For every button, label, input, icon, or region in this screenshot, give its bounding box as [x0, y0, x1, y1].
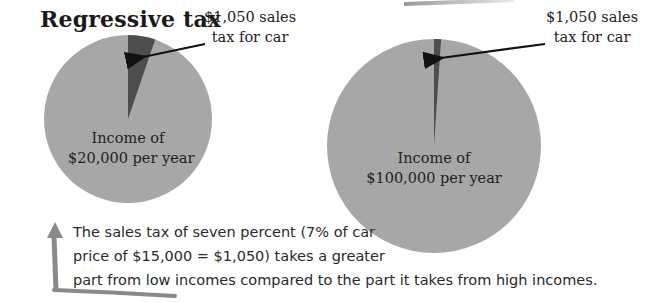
pie-label-high: Income of $100,000 per year [364, 148, 504, 188]
pie-label-line2: $100,000 per year [364, 168, 504, 188]
caption-line2: price of $15,000 = $1,050) takes a great… [73, 244, 597, 268]
pie-label-line1: Income of [68, 128, 188, 148]
caption-line1: The sales tax of seven percent (7% of ca… [73, 220, 597, 244]
pie-label-line1: Income of [364, 148, 504, 168]
caption-line3: part from low incomes compared to the pa… [73, 268, 597, 292]
pie-low-income [44, 35, 212, 203]
callout-line2: tax for car [204, 27, 296, 47]
callout-line2: tax for car [546, 27, 638, 47]
callout-label-low: $1,050 sales tax for car [204, 7, 296, 47]
pie-label-low: Income of $20,000 per year [68, 128, 188, 168]
callout-line1: $1,050 sales [546, 7, 638, 27]
explanation-caption: The sales tax of seven percent (7% of ca… [73, 220, 597, 292]
pie-label-line2: $20,000 per year [68, 148, 188, 168]
callout-line1: $1,050 sales [204, 7, 296, 27]
callout-label-high: $1,050 sales tax for car [546, 7, 638, 47]
